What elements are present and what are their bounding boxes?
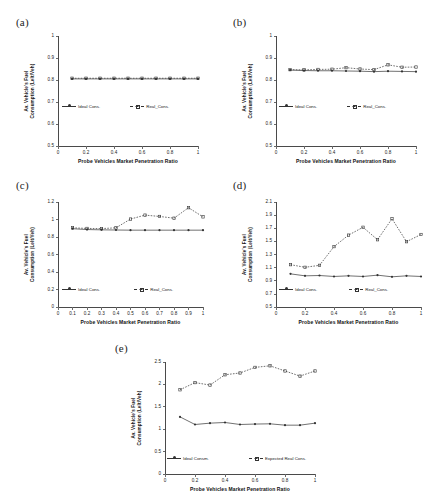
panel-b: (b) 0.50.60.70.80.9100.20.40.60.81Probe … [221, 0, 441, 180]
legend-entry[interactable]: Ideal Cons. [279, 104, 317, 109]
data-point [224, 421, 226, 423]
series-line-ideal [291, 274, 422, 277]
plot-a: 0.50.60.70.80.9100.20.40.60.81Probe Vehi… [0, 0, 221, 180]
legend-label: Ideal Cons. [295, 287, 317, 292]
data-point [289, 273, 291, 275]
legend: Ideal Cons.Real_Cons. [62, 104, 169, 109]
series-line-ideal [180, 417, 315, 425]
data-point [347, 275, 349, 277]
plot-e: 00.511.522.500.20.40.60.81Probe Vehicles… [105, 340, 337, 502]
data-point [420, 275, 422, 277]
series-line-real [291, 219, 422, 268]
figure-root: (a) 0.50.60.70.80.9100.20.40.60.81Probe … [0, 0, 441, 502]
data-point [420, 233, 422, 235]
legend-label: Ideal Cons. [78, 104, 100, 109]
series-line-real [290, 65, 416, 70]
data-point [362, 275, 364, 277]
legend-label: Real_Cons. [146, 104, 169, 109]
data-point [179, 416, 181, 418]
legend-solid-line-icon [62, 287, 76, 292]
data-point [202, 229, 204, 231]
data-point [314, 422, 316, 424]
data-point [173, 229, 175, 231]
legend-entry[interactable]: Ideal Cons. [279, 287, 317, 292]
legend: Ideal Consm.Expected Real Cons. [167, 456, 306, 461]
legend-entry[interactable]: Real_Cons. [134, 287, 173, 292]
data-point [144, 229, 146, 231]
data-point [158, 229, 160, 231]
data-point [239, 423, 241, 425]
legend-label: Expected Real Cons. [265, 456, 306, 461]
data-point [391, 276, 393, 278]
series-line-real [73, 208, 204, 229]
series-line-real [180, 366, 315, 390]
legend: Ideal Cons.Real_Cons. [62, 287, 173, 292]
legend-entry[interactable]: Real_Cons. [349, 287, 388, 292]
data-point [179, 389, 181, 391]
legend-solid-line-icon [167, 456, 181, 461]
data-point [269, 423, 271, 425]
legend-entry[interactable]: Real_Cons. [347, 104, 386, 109]
legend-label: Real_Cons. [363, 104, 386, 109]
data-point [333, 275, 335, 277]
series-layer [105, 340, 337, 502]
legend-solid-line-icon [279, 287, 293, 292]
legend-solid-line-icon [279, 104, 293, 109]
data-point [209, 422, 211, 424]
legend-solid-line-icon [62, 104, 76, 109]
series-layer [221, 0, 441, 180]
series-layer [0, 0, 221, 180]
series-line-ideal [73, 229, 204, 230]
plot-c: 00.20.40.60.811.200.10.20.30.40.50.60.70… [0, 175, 221, 345]
data-point [387, 70, 389, 72]
data-point [284, 424, 286, 426]
data-point [187, 229, 189, 231]
data-point [299, 424, 301, 426]
legend-label: Real_Cons. [365, 287, 388, 292]
data-point [254, 423, 256, 425]
data-point [405, 275, 407, 277]
data-point [318, 274, 320, 276]
data-point [415, 66, 417, 68]
panel-c: (c) 00.20.40.60.811.200.10.20.30.40.50.6… [0, 175, 221, 345]
data-point [129, 229, 131, 231]
plot-d: 0.50.70.91.11.31.51.71.92.100.20.40.60.8… [221, 175, 441, 345]
legend-dashed-line-icon [347, 104, 361, 109]
legend-dashed-line-icon [349, 287, 363, 292]
legend-entry[interactable]: Ideal Cons. [62, 287, 100, 292]
panel-d: (d) 0.50.70.91.11.31.51.71.92.100.20.40.… [221, 175, 441, 345]
data-point [415, 71, 417, 73]
legend-entry[interactable]: Ideal Cons. [62, 104, 100, 109]
legend: Ideal Cons.Real_Cons. [279, 287, 388, 292]
legend-entry[interactable]: Real_Cons. [130, 104, 169, 109]
panel-a: (a) 0.50.60.70.80.9100.20.40.60.81Probe … [0, 0, 221, 180]
legend-dashed-line-icon [130, 104, 144, 109]
data-point [401, 70, 403, 72]
series-layer [221, 175, 441, 345]
data-point [304, 275, 306, 277]
legend-dashed-line-icon [134, 287, 148, 292]
legend-label: Ideal Consm. [183, 456, 209, 461]
data-point [345, 70, 347, 72]
data-point [331, 70, 333, 72]
series-layer [0, 175, 221, 345]
series-line-ideal [290, 70, 416, 72]
panel-e: (e) 00.511.522.500.20.40.60.81Probe Vehi… [105, 340, 337, 502]
legend-label: Ideal Cons. [78, 287, 100, 292]
legend-label: Ideal Cons. [295, 104, 317, 109]
legend-label: Real_Cons. [150, 287, 173, 292]
legend: Ideal Cons.Real_Cons. [279, 104, 386, 109]
data-point [376, 274, 378, 276]
legend-dashed-line-icon [249, 456, 263, 461]
data-point [194, 423, 196, 425]
legend-entry[interactable]: Expected Real Cons. [249, 456, 306, 461]
legend-entry[interactable]: Ideal Consm. [167, 456, 209, 461]
plot-b: 0.50.60.70.80.9100.20.40.60.81Probe Vehi… [221, 0, 441, 180]
